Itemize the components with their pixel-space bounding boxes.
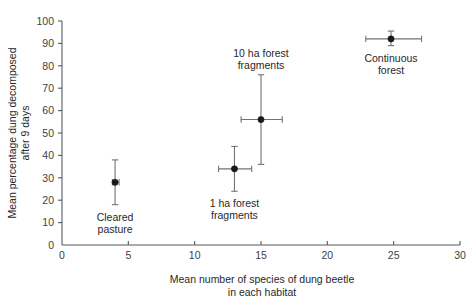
annotation-line2-0: pasture (98, 223, 133, 235)
marker-1 (231, 166, 237, 172)
y-tick-label-50: 50 (42, 127, 54, 139)
y-tick-label-10: 10 (42, 216, 54, 228)
annotation-line2-1: fragments (211, 209, 258, 221)
y-tick-label-40: 40 (42, 149, 54, 161)
data-point-1 (219, 146, 252, 191)
annotation-line2-3: forest (378, 64, 404, 76)
marker-3 (388, 36, 394, 42)
annotation-line1-1: 1 ha forest (210, 197, 260, 209)
data-point-2 (241, 75, 282, 165)
x-tick-label-30: 30 (454, 249, 466, 261)
annotation-line1-2: 10 ha forest (233, 47, 289, 59)
scatter-plot: 0102030405060708090100051015202530 Clear… (0, 0, 469, 305)
y-tick-label-0: 0 (48, 239, 54, 251)
x-tick-label-0: 0 (59, 249, 65, 261)
annotation-line2-2: fragments (238, 59, 285, 71)
marker-0 (112, 179, 118, 185)
y-tick-label-100: 100 (36, 15, 54, 27)
x-tick-label-5: 5 (125, 249, 131, 261)
data-point-3 (366, 31, 422, 46)
x-tick-label-10: 10 (189, 249, 201, 261)
y-tick-label-20: 20 (42, 194, 54, 206)
chart-page: 0102030405060708090100051015202530 Clear… (0, 0, 469, 305)
x-axis-label-line1: Mean number of species of dung beetle (170, 273, 355, 285)
y-tick-label-80: 80 (42, 60, 54, 72)
annotation-line1-0: Cleared (97, 211, 134, 223)
marker-2 (258, 116, 264, 122)
x-axis-label-line2: in each habitat (228, 286, 296, 298)
y-tick-label-70: 70 (42, 82, 54, 94)
y-axis-label-line1: Mean percentage dung decomposed (6, 47, 18, 218)
data-point-0 (112, 160, 119, 205)
y-tick-label-90: 90 (42, 37, 54, 49)
x-tick-label-15: 15 (255, 249, 267, 261)
point-annotations: Clearedpasture1 ha forestfragments10 ha … (97, 47, 418, 235)
y-tick-label-60: 60 (42, 104, 54, 116)
y-axis-label-line2: after 9 days (19, 106, 31, 161)
y-tick-label-30: 30 (42, 172, 54, 184)
x-tick-label-20: 20 (321, 249, 333, 261)
annotation-line1-3: Continuous (364, 52, 417, 64)
x-tick-label-25: 25 (388, 249, 400, 261)
